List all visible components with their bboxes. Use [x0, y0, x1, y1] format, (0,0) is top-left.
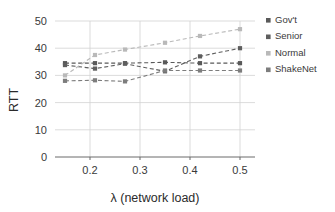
data-point-marker — [123, 62, 127, 66]
legend-label: Gov't — [275, 14, 297, 25]
y-tick-label: 40 — [35, 42, 47, 54]
x-tick-label: 0.4 — [182, 164, 197, 176]
legend-swatch — [266, 51, 271, 56]
data-point-marker — [93, 67, 97, 71]
data-point-marker — [63, 79, 67, 83]
data-point-marker — [163, 68, 167, 72]
x-tick-label: 0.5 — [232, 164, 247, 176]
data-point-marker — [93, 78, 97, 82]
y-tick-label: 10 — [35, 124, 47, 136]
data-point-marker — [123, 79, 127, 83]
data-point-marker — [93, 61, 97, 65]
y-tick-label: 50 — [35, 15, 47, 27]
legend-label: Normal — [275, 47, 306, 58]
data-point-marker — [93, 53, 97, 57]
legend-swatch — [266, 35, 271, 40]
y-tick-label: 20 — [35, 97, 47, 109]
legend-label: ShakeNet — [275, 63, 317, 74]
data-point-marker — [63, 73, 67, 77]
data-point-marker — [238, 61, 242, 65]
legend-swatch — [266, 68, 271, 73]
x-axis-title: λ (network load) — [111, 191, 200, 205]
data-point-marker — [238, 27, 242, 31]
y-axis-title: RTT — [7, 88, 21, 112]
y-tick-label: 30 — [35, 69, 47, 81]
data-point-marker — [163, 41, 167, 45]
legend-label: Senior — [275, 30, 302, 41]
data-point-marker — [238, 46, 242, 50]
data-point-marker — [63, 63, 67, 67]
data-point-marker — [198, 54, 202, 58]
legend-swatch — [266, 18, 271, 23]
data-point-marker — [163, 60, 167, 64]
data-point-marker — [123, 47, 127, 51]
data-point-marker — [198, 34, 202, 38]
rtt-vs-network-load-chart: 01020304050 0.20.30.40.5 RTT λ (network … — [0, 0, 335, 212]
data-point-marker — [198, 61, 202, 65]
y-tick-label: 0 — [41, 151, 47, 163]
x-tick-label: 0.3 — [132, 164, 147, 176]
data-point-marker — [238, 68, 242, 72]
chart-figure: 01020304050 0.20.30.40.5 RTT λ (network … — [0, 0, 335, 212]
x-tick-label: 0.2 — [82, 164, 97, 176]
data-point-marker — [198, 68, 202, 72]
